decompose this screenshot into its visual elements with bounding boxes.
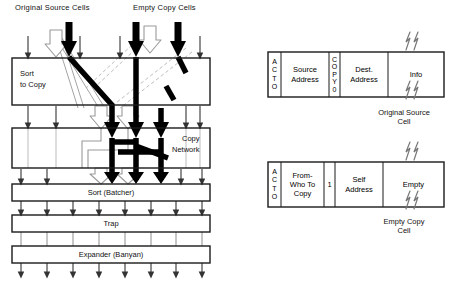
caption-empty-copy-cell: Empty Copy Cell (352, 217, 456, 235)
stage-label-line: to Copy (20, 79, 46, 90)
cell-field-source-address: Source Address (281, 52, 329, 97)
stage-label-sort-to-copy: Sort to Copy (20, 68, 46, 90)
hollow-routing-copy-network (82, 129, 128, 168)
copy0-letter: 0 (333, 86, 337, 94)
field-line: Address (345, 185, 373, 195)
field-line: Self (353, 175, 366, 185)
acto-letter: C (272, 66, 277, 75)
stage-label-line: Sort (20, 68, 46, 79)
schematic-svg (0, 0, 458, 283)
field-line: Who To (290, 180, 315, 189)
caption-line: Cell (352, 226, 456, 235)
field-line: From- (293, 171, 313, 180)
field-line: 1 (327, 180, 331, 189)
field-line: Copy (294, 189, 312, 198)
stage-label-expander-banyan: Expander (Banyan) (12, 250, 210, 259)
stage-label-line: Network (172, 144, 200, 155)
acto-letter: O (272, 193, 277, 202)
cell-field-dest-address: Dest. Address (340, 52, 388, 97)
caption-line: Cell (352, 117, 456, 126)
cell-field-info: Info (388, 52, 444, 97)
cell-field-one-bit: 1 (324, 162, 335, 207)
stage-label-line: Copy (172, 133, 200, 144)
thin-arrows-batcher-to-trap (21, 201, 202, 213)
stage-label-sort-batcher: Sort (Batcher) (12, 188, 210, 197)
thin-arrows-expander-out (21, 263, 202, 275)
copy0-letter: P (332, 71, 337, 79)
thick-output-arrowheads (104, 172, 169, 184)
acto-letter: O (272, 83, 277, 92)
lines-trap-to-expander (21, 232, 202, 246)
caption-line: Original Source (352, 108, 456, 117)
hollow-arrow-copy-top (139, 26, 161, 53)
cell-field-acto-empty: A C T O (268, 162, 281, 207)
cell-field-acto-original: A C T O (268, 52, 281, 97)
copy0-letter: Y (332, 78, 337, 86)
cell-field-empty: Empty (383, 162, 444, 207)
field-line: Info (410, 70, 423, 79)
acto-letter: T (272, 75, 276, 84)
cell-field-copy0: C O P Y 0 (329, 52, 340, 97)
acto-letter: A (272, 58, 277, 67)
caption-line: Empty Copy (352, 217, 456, 226)
acto-letter: C (272, 176, 277, 185)
cell-field-from-who-to-copy: From- Who To Copy (281, 162, 324, 207)
thick-path-copy-2 (153, 57, 186, 138)
field-line: Empty (403, 180, 424, 189)
thick-arrow-copy-2 (170, 22, 186, 57)
acto-letter: T (272, 185, 276, 194)
field-line: Address (291, 75, 319, 85)
thick-path-copy-1 (128, 57, 144, 138)
field-line: Address (350, 75, 378, 85)
cell-field-self-address: Self Address (335, 162, 383, 207)
stage-label-trap: Trap (12, 219, 210, 228)
copy0-letter: C (332, 56, 337, 64)
stage-label-copy-network: Copy Network (172, 133, 200, 155)
thick-path-source-route (69, 57, 120, 138)
caption-original-source-cell: Original Source Cell (352, 108, 456, 126)
acto-letter: A (272, 168, 277, 177)
field-line: Source (293, 65, 317, 75)
field-line: Dest. (355, 65, 373, 75)
copy0-letter: O (332, 63, 337, 71)
copy-network-figure: Original Source Cells Empty Copy Cells (0, 0, 458, 283)
